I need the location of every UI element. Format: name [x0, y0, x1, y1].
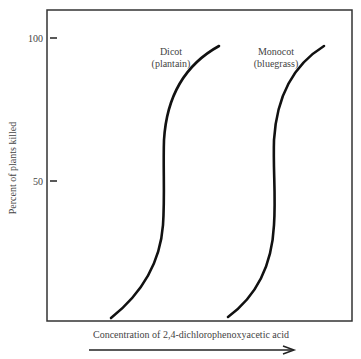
y-axis-label: Percent of plants killed: [7, 122, 18, 214]
monocot-label-line1: Monocot: [258, 46, 294, 57]
dicot-label-line1: Dicot: [160, 46, 182, 57]
dicot-curve: [111, 46, 219, 318]
monocot-label-line2: (bluegrass): [254, 58, 298, 70]
dose-response-chart: 100 50 Percent of plants killed Dicot (p…: [0, 0, 361, 359]
plot-frame: [47, 10, 352, 321]
monocot-curve: [228, 46, 324, 317]
dicot-label-line2: (plantain): [152, 58, 191, 70]
x-axis-label: Concentration of 2,4-dichlorophenoxyacet…: [93, 329, 289, 340]
y-tick-label-50: 50: [33, 176, 43, 187]
y-tick-label-100: 100: [28, 33, 43, 44]
